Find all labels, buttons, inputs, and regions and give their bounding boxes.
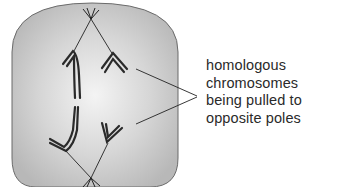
annotation-line-3: being pulled to [206, 92, 339, 110]
annotation-line-1: homologous [206, 57, 339, 75]
annotation-label: homologous chromosomes being pulled to o… [206, 57, 339, 127]
annotation-line-4: opposite poles [206, 110, 339, 128]
annotation-line-2: chromosomes [206, 75, 339, 93]
cell-membrane [12, 3, 178, 187]
